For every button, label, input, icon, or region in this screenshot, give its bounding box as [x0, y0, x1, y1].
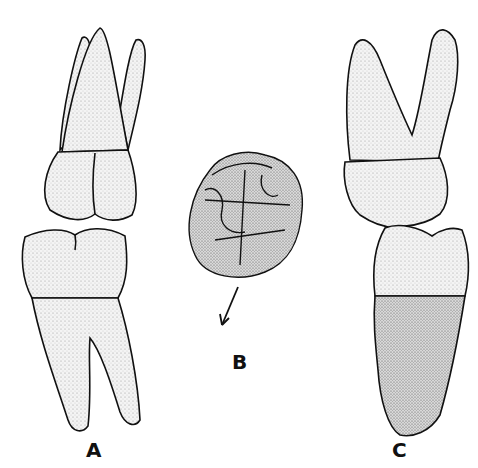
panel-c-label: C: [392, 438, 407, 462]
panel-a-lower-tooth: [22, 229, 140, 431]
panel-a-upper-tooth: [45, 28, 145, 220]
panel-b-arrow: [220, 287, 238, 325]
panel-b-label: B: [232, 350, 247, 374]
panel-c-lower-tooth: [374, 226, 469, 436]
dental-illustration: [0, 0, 478, 468]
panel-c-upper-tooth: [344, 30, 457, 228]
panel-b-occlusal-view: [189, 152, 302, 277]
panel-a-label: A: [86, 438, 101, 462]
